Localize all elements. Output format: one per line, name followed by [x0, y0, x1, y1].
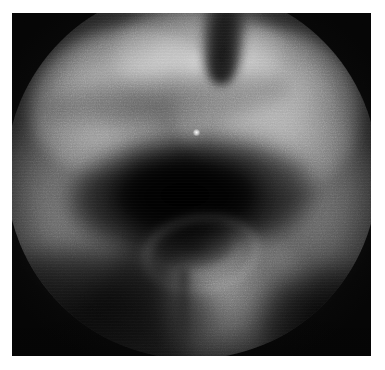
- circular-field-of-view: [12, 13, 371, 356]
- tissue-seam: [180, 269, 188, 356]
- specular-highlight-icon: [193, 129, 200, 136]
- image-viewer: Grayscale arthroscopic view with circula…: [0, 0, 385, 370]
- arthroscopic-image: Grayscale arthroscopic view with circula…: [12, 13, 371, 356]
